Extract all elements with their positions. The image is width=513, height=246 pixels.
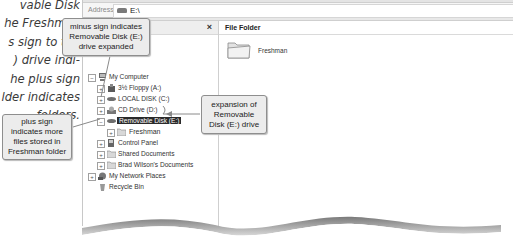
- collapse-icon[interactable]: −: [97, 118, 105, 126]
- tree-item-shared-documents[interactable]: + Shared Documents: [83, 149, 218, 160]
- tree-item-local-disk[interactable]: + LOCAL DISK (C:): [83, 94, 218, 105]
- folder-icon: [117, 128, 126, 136]
- callout-line: minus sign indicates: [63, 22, 149, 32]
- tree-item-label: 3½ Floppy (A:): [118, 84, 161, 91]
- expand-icon[interactable]: +: [97, 151, 105, 159]
- expand-icon[interactable]: +: [97, 85, 105, 93]
- address-value: E:\: [130, 6, 140, 15]
- address-bar: Address E:\: [83, 3, 513, 18]
- tree-item-label: CD Drive (D:): [118, 106, 158, 113]
- tree-item-cd-drive[interactable]: + CD Drive (D:): [83, 105, 218, 116]
- cd-drive-icon: [107, 106, 116, 114]
- text-line: he plus sign: [0, 70, 80, 88]
- callout-line: drive expanded: [63, 42, 149, 52]
- tree-item-my-network-places[interactable]: + My Network Places: [83, 171, 218, 182]
- folder-icon: [107, 150, 116, 158]
- control-panel-icon: [107, 139, 116, 147]
- tree-item-freshman[interactable]: + Freshman: [83, 127, 218, 138]
- address-label: Address: [88, 6, 114, 13]
- tree-item-label: Brad Wilson's Documents: [118, 161, 193, 168]
- removable-drive-icon: [107, 117, 116, 125]
- callout-line: Freshman folder: [3, 147, 71, 157]
- callout-line: Removable Disk (E:): [63, 32, 149, 42]
- tree-item-label: My Computer: [109, 73, 149, 80]
- callout-line: indicates more: [3, 127, 71, 137]
- callout-line: files stored in: [3, 137, 71, 147]
- expand-icon[interactable]: +: [88, 173, 96, 181]
- callout-line: plus sign: [3, 117, 71, 127]
- callout-line: Disk (E:) drive: [202, 120, 266, 130]
- address-input[interactable]: E:\: [113, 4, 513, 18]
- tree-item-brad-wilsons-documents[interactable]: + Brad Wilson's Documents: [83, 160, 218, 171]
- tree-item-label: Recycle Bin: [109, 183, 144, 190]
- content-group-header: File Folder: [219, 21, 513, 35]
- tree-item-removable-disk[interactable]: − Removable Disk (E:): [83, 116, 218, 127]
- computer-icon: [98, 73, 107, 81]
- folder-icon: [227, 40, 251, 59]
- tree-item-recycle-bin[interactable]: Recycle Bin: [83, 182, 218, 193]
- expand-icon[interactable]: +: [97, 96, 105, 104]
- callout-expansion: expansion of Removable Disk (E:) drive: [201, 95, 267, 134]
- expand-icon[interactable]: +: [97, 162, 105, 170]
- folder-icon: [107, 161, 116, 169]
- callout-line: Removable: [202, 110, 266, 120]
- tree-item-label: Removable Disk (E:): [117, 117, 181, 124]
- recycle-bin-icon: [98, 183, 107, 191]
- callout-line: expansion of: [202, 100, 266, 110]
- collapse-icon[interactable]: −: [88, 74, 96, 82]
- hard-drive-icon: [107, 95, 116, 103]
- text-line: vable Disk: [0, 0, 80, 14]
- tree-item-label: LOCAL DISK (C:): [118, 95, 169, 102]
- callout-minus-sign: minus sign indicates Removable Disk (E:)…: [62, 18, 150, 56]
- tree-item-label: Freshman: [129, 128, 161, 135]
- tree-item-control-panel[interactable]: + Control Panel: [83, 138, 218, 149]
- expand-icon[interactable]: +: [97, 107, 105, 115]
- folder-item-label: Freshman: [258, 47, 287, 54]
- expand-icon[interactable]: +: [97, 140, 105, 148]
- tree-item-label: My Network Places: [109, 172, 165, 179]
- tree-item-label: Shared Documents: [118, 150, 174, 157]
- removable-drive-icon: [117, 8, 127, 13]
- close-icon[interactable]: ×: [207, 22, 212, 32]
- tree-item-my-computer[interactable]: − My Computer: [83, 72, 218, 83]
- tree-item-floppy[interactable]: + 3½ Floppy (A:): [83, 83, 218, 94]
- callout-plus-sign: plus sign indicates more files stored in…: [2, 114, 72, 160]
- text-line: lder indicates: [0, 88, 80, 106]
- tree-item-label: Control Panel: [118, 139, 158, 146]
- expand-icon[interactable]: +: [107, 129, 115, 137]
- floppy-icon: [107, 84, 116, 92]
- network-icon: [98, 172, 107, 180]
- torn-edge-decoration: [0, 195, 501, 246]
